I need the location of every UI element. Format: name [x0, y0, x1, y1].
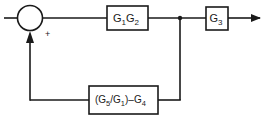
block-diagram: + G1G2 G3 (G5/G1)–G4 — [0, 0, 262, 117]
feedback-arrowhead-icon — [26, 31, 34, 43]
feedback-block: (G5/G1)–G4 — [89, 86, 158, 114]
fb-sub4: 4 — [142, 99, 146, 108]
fb-slash: /G — [110, 94, 121, 105]
g3-main: G — [210, 12, 219, 24]
output-block-g3: G3 — [206, 7, 228, 30]
g1g2-main-2: G — [126, 12, 135, 24]
g3-sub: 3 — [218, 18, 223, 27]
fb-open: (G — [95, 94, 106, 105]
g1g2-main-1: G — [113, 12, 122, 24]
summing-sign-label: + — [45, 29, 50, 39]
forward-block-g1g2: G1G2 — [107, 6, 148, 30]
g1g2-sub-2: 2 — [135, 18, 140, 27]
fb-close: )–G — [125, 94, 142, 105]
summing-junction — [18, 6, 43, 31]
